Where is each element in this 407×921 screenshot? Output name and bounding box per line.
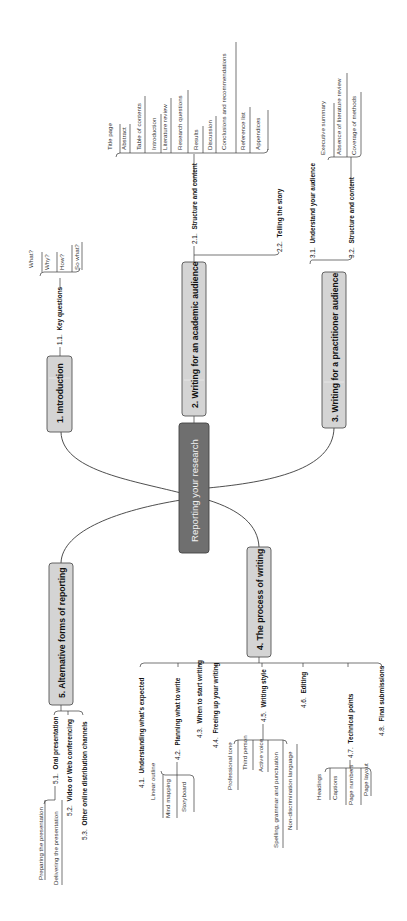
svg-text:3.1. Understand your aud: 3.1. Understand your audience <box>309 162 317 258</box>
svg-text:4.4. Freeing up your wri: 4.4. Freeing up your writing <box>212 662 220 748</box>
svg-text:Abstract: Abstract <box>120 127 127 150</box>
svg-text:4.7. Technical points: 4.7. Technical points <box>347 693 355 758</box>
svg-text:How?: How? <box>58 254 65 270</box>
subtopic-4-5[interactable]: 4.5. Writing style <box>260 669 268 740</box>
branch-academic-label: 2. Writing for an academic audience <box>190 261 200 408</box>
svg-text:Conclusions and recommendation: Conclusions and recommendations <box>220 53 227 150</box>
connector-5 <box>61 500 181 563</box>
svg-text:Appendices: Appendices <box>254 118 261 150</box>
subtopic-structure-content-academic[interactable]: 2.1. Structure and content <box>191 154 279 262</box>
branch-academic-audience[interactable]: 2. Writing for an academic audience <box>182 261 206 416</box>
svg-text:Reference list: Reference list <box>239 112 246 150</box>
svg-text:2.1. Structure and conte: 2.1. Structure and content <box>191 162 198 244</box>
process-bus <box>140 657 382 667</box>
subtopic-structure-content-practitioner[interactable]: 3.2. Structure and content <box>348 157 355 258</box>
subtopic-key-questions[interactable]: 1.1. Key questions <box>40 268 80 356</box>
technical-points-leaves: Headings Captions Page numbers Page layo… <box>315 763 371 805</box>
svg-text:Coverage of methods: Coverage of methods <box>350 96 357 155</box>
svg-text:Delivering the presentation: Delivering the presentation <box>52 811 59 885</box>
svg-text:Title page: Title page <box>106 122 113 150</box>
mind-map: Reporting your research 1. Introduction … <box>0 0 407 921</box>
svg-text:Absence of literature review: Absence of literature review <box>335 78 342 155</box>
subtopic-5-2[interactable]: 5.2. Video or Web conferencing <box>66 719 74 816</box>
svg-text:4.6. Editing: 4.6. Editing <box>300 672 308 708</box>
branch-practitioner-label: 3. Writing for a practitioner audience <box>330 272 340 422</box>
svg-text:Linear outline: Linear outline <box>149 762 156 800</box>
key-questions-leaves: What? Why? How? So what? <box>27 242 82 272</box>
connector-3 <box>208 428 334 488</box>
branch-alternative-label: 5. Alternative forms of reporting <box>57 567 67 698</box>
center-node-label: Reporting your research <box>189 439 200 542</box>
branch-process-label: 4. The process of writing <box>255 549 265 650</box>
branch-process-of-writing[interactable]: 4. The process of writing <box>247 547 271 657</box>
svg-text:5.3. Other online distri: 5.3. Other online distribution channels <box>81 721 88 840</box>
svg-text:3.2. Structure and conte: 3.2. Structure and content <box>348 176 355 258</box>
subtopic-5-3[interactable]: 5.3. Other online distribution channels <box>81 721 88 840</box>
svg-text:Why?: Why? <box>43 254 50 270</box>
svg-text:Preparing the presentation: Preparing the presentation <box>37 807 44 880</box>
subtopic-telling-story[interactable]: 2.2. Telling the story <box>276 188 284 252</box>
subtopic-4-1[interactable]: 4.1. Understanding what's expected <box>138 677 146 788</box>
svg-text:What?: What? <box>27 250 34 268</box>
svg-text:Discussion: Discussion <box>206 120 213 150</box>
svg-text:Mind mapping: Mind mapping <box>164 779 171 818</box>
svg-text:5.1. Oral presentation: 5.1. Oral presentation <box>52 717 60 784</box>
subtopic-4-3[interactable]: 4.3. When to start writing <box>196 660 204 738</box>
connector-1 <box>61 432 181 493</box>
svg-text:4.5. Writing style: 4.5. Writing style <box>260 669 268 722</box>
svg-text:Results: Results <box>192 129 199 150</box>
branch-introduction-label: 1. Introduction <box>55 363 65 423</box>
subtopic-4-7[interactable]: 4.7. Technical points <box>347 693 355 768</box>
svg-text:4.1. Understanding what': 4.1. Understanding what's expected <box>138 677 146 788</box>
practitioner-structure-leaves: Executive summary Absence of literature … <box>319 73 361 160</box>
svg-text:Captions: Captions <box>331 776 338 800</box>
writing-style-leaves: Professional tone Third person Active vo… <box>226 735 297 848</box>
connector-4 <box>208 500 259 547</box>
svg-text:Page layout: Page layout <box>362 763 369 796</box>
svg-text:Third person: Third person <box>241 735 248 770</box>
svg-text:Non-discrimination language: Non-discrimination language <box>286 751 293 830</box>
svg-text:4.3. When to start writi: 4.3. When to start writing <box>196 660 204 738</box>
svg-text:Active voice: Active voice <box>257 738 264 772</box>
svg-text:Literature review: Literature review <box>161 104 168 150</box>
svg-text:Storyboard: Storyboard <box>180 781 187 812</box>
svg-text:4.2. Planning what to wr: 4.2. Planning what to write <box>174 677 182 760</box>
svg-text:Professional tone: Professional tone <box>226 742 233 790</box>
svg-text:Introduction: Introduction <box>150 117 157 150</box>
branch-practitioner-audience[interactable]: 3. Writing for a practitioner audience <box>322 272 346 428</box>
svg-text:2.2. Telling the story: 2.2. Telling the story <box>276 188 284 252</box>
alternative-bus <box>54 705 83 715</box>
academic-structure-leaves: Title page Abstract Table of contents In… <box>106 42 268 157</box>
subtopic-5-1[interactable]: 5.1. Oral presentation <box>52 717 60 800</box>
subtopic-4-8[interactable]: 4.8. Final submissions <box>378 665 385 736</box>
svg-text:Table of contents: Table of contents <box>135 103 142 150</box>
subtopic-understand-audience[interactable]: 3.1. Understand your audience <box>309 162 352 264</box>
branch-alternative-forms[interactable]: 5. Alternative forms of reporting <box>49 563 73 705</box>
svg-text:Research questions: Research questions <box>176 95 183 150</box>
oral-presentation-leaves: Preparing the presentation Delivering th… <box>37 800 62 885</box>
svg-text:Headings: Headings <box>315 774 322 800</box>
svg-text:4.8. Final submissions: 4.8. Final submissions <box>378 665 385 736</box>
subtopic-4-4[interactable]: 4.4. Freeing up your writing <box>212 662 220 748</box>
branch-introduction[interactable]: 1. Introduction <box>47 356 72 432</box>
center-node[interactable]: Reporting your research <box>179 423 209 553</box>
subtopic-4-2[interactable]: 4.2. Planning what to write <box>174 677 182 775</box>
subtopic-4-6[interactable]: 4.6. Editing <box>300 672 308 708</box>
planning-leaves: Linear outline Mind mapping Storyboard <box>149 762 194 818</box>
svg-text:Page numbers: Page numbers <box>347 765 354 805</box>
svg-text:Executive summary: Executive summary <box>319 100 326 155</box>
svg-text:5.2. Video or Web confer: 5.2. Video or Web conferencing <box>66 719 74 816</box>
svg-text:1.1. Key questions: 1.1. Key questions <box>56 286 64 345</box>
svg-text:Spelling, grammar and punctuat: Spelling, grammar and punctuation <box>272 751 279 848</box>
svg-text:So what?: So what? <box>73 244 80 270</box>
